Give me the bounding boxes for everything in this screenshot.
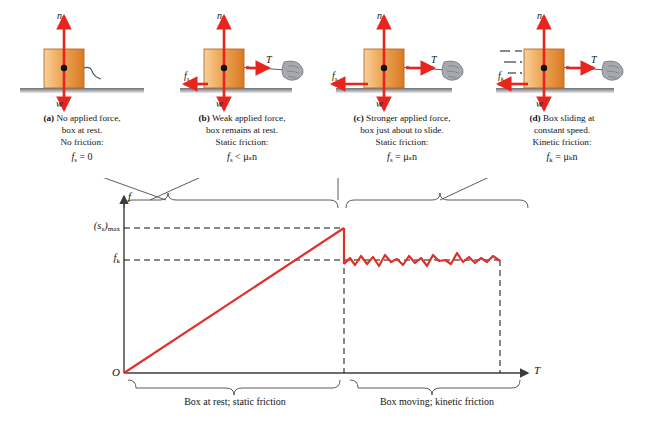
ground-surface: [496, 88, 614, 93]
bottom-bracket-static: [128, 380, 340, 395]
panel-b-formula: fs < μₛn: [162, 151, 322, 166]
center-of-mass-dot: [541, 65, 547, 71]
panel-a-formula: fs = 0: [2, 151, 162, 166]
x-axis-label: T: [534, 364, 540, 376]
tick-label-fs-max: (ss)max: [48, 220, 120, 233]
ground-surface: [20, 88, 144, 93]
region-label-static: Box at rest; static friction: [130, 396, 340, 407]
leader-lines: [88, 178, 500, 200]
panel-d-formula: fk = μₖn: [482, 151, 642, 166]
weight-force-label: w: [216, 98, 223, 109]
panel-d-line2: constant speed.: [534, 125, 590, 135]
tick-label-fk: fk: [48, 252, 120, 265]
friction-figure: n w (a) No applied force, box at rest. N…: [0, 0, 645, 422]
panel-b-caption: (b) Weak applied force, box remains at r…: [162, 112, 322, 166]
weight-force-label: w: [536, 98, 543, 109]
panel-c: n w T fs (c) Stronger applied force, box…: [322, 0, 482, 185]
panel-a-letter: (a): [43, 113, 54, 123]
hand-icon: [442, 61, 463, 80]
friction-force-label: fk: [498, 70, 505, 82]
panel-c-line1: Stronger applied force,: [366, 113, 450, 123]
panel-b: n w T fs (b) Weak applied force, box rem…: [162, 0, 322, 185]
panel-b-line1: Weak applied force,: [212, 113, 286, 123]
panel-b-diagram: n w T fs: [162, 0, 322, 115]
center-of-mass-dot: [61, 65, 67, 71]
panel-a: n w (a) No applied force, box at rest. N…: [2, 0, 162, 185]
friction-force-label: fs: [184, 70, 190, 82]
hand-icon: [282, 61, 303, 80]
friction-force-label: fs: [332, 70, 338, 82]
center-of-mass-dot: [381, 65, 387, 71]
top-bracket-kinetic: [346, 193, 528, 208]
panel-a-line3: No friction:: [60, 137, 103, 147]
panel-a-caption: (a) No applied force, box at rest. No fr…: [2, 112, 162, 166]
weight-force-label: w: [376, 98, 383, 109]
panel-b-line3: Static friction:: [216, 137, 269, 147]
origin-label: O: [112, 366, 120, 378]
region-label-kinetic: Box moving; kinetic friction: [352, 396, 522, 407]
ground-surface: [180, 88, 292, 93]
ground-surface: [336, 88, 452, 93]
rope: [84, 67, 101, 79]
panel-d-diagram: n w T fk: [482, 0, 642, 115]
normal-force-label: n: [217, 10, 222, 21]
normal-force-label: n: [537, 10, 542, 21]
weight-force-label: w: [56, 98, 63, 109]
panel-b-line2: box remains at rest.: [206, 125, 278, 135]
panel-d-letter: (d): [529, 113, 540, 123]
tension-force-label: T: [591, 54, 598, 65]
panel-d-caption: (d) Box sliding at constant speed. Kinet…: [482, 112, 642, 166]
hand-icon: [602, 61, 623, 80]
panel-c-letter: (c): [354, 113, 364, 123]
panel-b-letter: (b): [199, 113, 210, 123]
panel-c-diagram: n w T fs: [322, 0, 482, 115]
panel-c-line2: box just about to slide.: [360, 125, 443, 135]
panel-c-caption: (c) Stronger applied force, box just abo…: [322, 112, 482, 166]
top-bracket-static: [124, 193, 338, 208]
friction-graph: f T O (ss)max fk Box at rest; static fri…: [0, 178, 645, 422]
panel-d-line3: Kinetic friction:: [533, 137, 592, 147]
panel-d: n w T fk (d) Box sliding at constant spe…: [482, 0, 642, 185]
center-of-mass-dot: [221, 65, 227, 71]
tension-force-label: T: [431, 54, 438, 65]
static-friction-curve: [124, 228, 344, 373]
motion-lines: [500, 51, 522, 73]
panel-d-line1: Box sliding at: [543, 113, 595, 123]
normal-force-label: n: [377, 10, 382, 21]
tension-force-label: T: [266, 54, 273, 65]
panel-a-diagram: n w: [2, 0, 162, 115]
panel-a-line1: No applied force,: [56, 113, 120, 123]
panel-c-formula: fs = μₛn: [322, 151, 482, 166]
bottom-bracket-kinetic: [350, 380, 520, 395]
panel-c-line3: Static friction:: [376, 137, 429, 147]
friction-graph-svg: [0, 178, 645, 422]
normal-force-label: n: [57, 10, 62, 21]
panel-a-line2: box at rest.: [62, 125, 103, 135]
y-axis-label: f: [128, 190, 131, 202]
